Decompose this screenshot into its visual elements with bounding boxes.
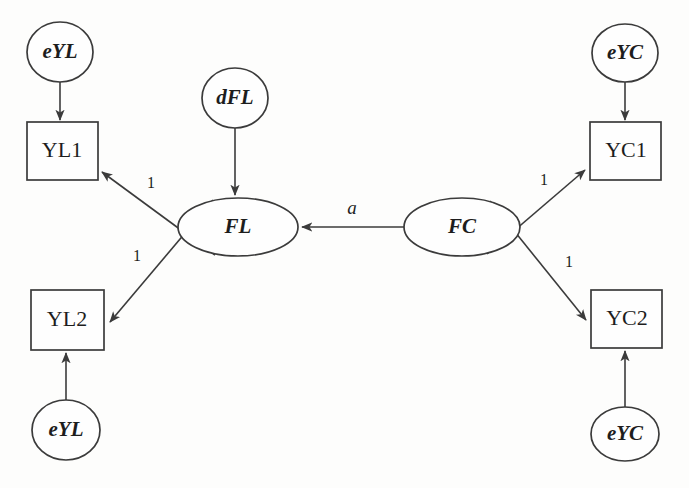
node-label-eyc-top: eYC bbox=[607, 40, 644, 64]
node-eyc-top[interactable]: eYC bbox=[592, 24, 658, 82]
node-label-yl2: YL2 bbox=[47, 306, 87, 331]
node-yl2[interactable]: YL2 bbox=[31, 290, 104, 350]
node-label-yc1: YC1 bbox=[605, 137, 647, 162]
node-label-eyc-bottom: eYC bbox=[607, 421, 644, 445]
node-yl1[interactable]: YL1 bbox=[27, 122, 98, 180]
edge-label-fl-yl1: 1 bbox=[147, 174, 155, 191]
node-label-yl1: YL1 bbox=[42, 137, 82, 162]
node-label-yc2: YC2 bbox=[606, 305, 648, 330]
node-label-eyl-top: eYL bbox=[43, 39, 78, 63]
edge-label-fl-yl2: 1 bbox=[133, 247, 141, 264]
node-label-fc: FC bbox=[447, 214, 477, 238]
node-eyc-bottom[interactable]: eYC bbox=[591, 407, 659, 461]
node-label-eyl-bottom: eYL bbox=[49, 417, 84, 441]
node-eyl-bottom[interactable]: eYL bbox=[32, 400, 100, 460]
edge-label-fc-yc1: 1 bbox=[540, 171, 548, 188]
edge-label-fc-yc2: 1 bbox=[565, 253, 573, 270]
edge-label-fc-fl: a bbox=[347, 197, 357, 218]
node-label-fl: FL bbox=[224, 214, 252, 238]
node-eyl-top[interactable]: eYL bbox=[27, 22, 93, 82]
node-fl[interactable]: FL bbox=[178, 198, 298, 256]
node-fc[interactable]: FC bbox=[404, 198, 520, 256]
sem-path-diagram: eYL YL1 dFL FL FC bbox=[0, 0, 689, 488]
node-yc1[interactable]: YC1 bbox=[590, 122, 661, 180]
edge-group bbox=[60, 82, 625, 407]
node-group: eYL YL1 dFL FL FC bbox=[27, 22, 662, 461]
path-diagram-canvas: eYL YL1 dFL FL FC bbox=[0, 0, 689, 488]
node-yc2[interactable]: YC2 bbox=[591, 290, 662, 348]
node-dfl[interactable]: dFL bbox=[202, 68, 268, 128]
node-label-dfl: dFL bbox=[216, 85, 253, 109]
